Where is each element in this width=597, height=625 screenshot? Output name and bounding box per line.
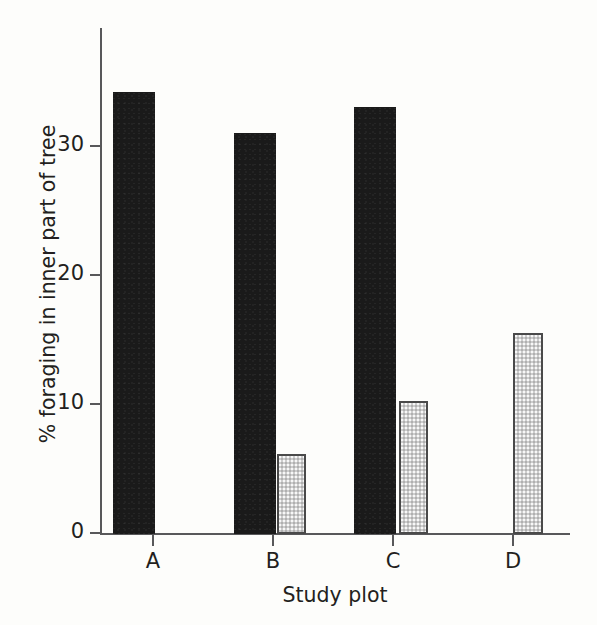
bar-chart-figure: 30 20 10 0 A B C D % foraging in inner p…	[0, 0, 597, 625]
y-axis-title: % foraging in inner part of tree	[36, 54, 60, 514]
y-tick-mark-20	[90, 274, 101, 276]
y-tick-label-0: 0	[24, 521, 84, 542]
x-tick-label-b: B	[243, 551, 303, 572]
bar-dark-c	[354, 107, 396, 534]
y-tick-mark-30	[90, 145, 101, 147]
x-tick-mark-a	[152, 535, 154, 546]
x-tick-label-d: D	[483, 551, 543, 572]
y-tick-mark-10	[90, 403, 101, 405]
x-tick-label-c: C	[363, 551, 423, 572]
bar-light-c	[399, 401, 428, 534]
bar-light-b	[277, 454, 306, 534]
bar-dark-a	[113, 92, 155, 534]
bar-light-d	[513, 333, 543, 534]
x-tick-mark-d	[512, 535, 514, 546]
x-tick-mark-b	[272, 535, 274, 546]
y-axis-line	[100, 28, 102, 535]
bar-dark-b	[234, 133, 276, 534]
x-tick-mark-c	[392, 535, 394, 546]
x-tick-label-a: A	[123, 551, 183, 572]
x-axis-line	[100, 533, 570, 535]
x-axis-title: Study plot	[105, 583, 565, 607]
y-tick-mark-0	[90, 532, 101, 534]
